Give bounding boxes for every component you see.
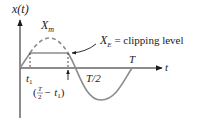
clipped-waveform xyxy=(20,53,132,100)
diagram-svg: x(t) t Xm XE = clipping level t1 T/2 T (… xyxy=(0,0,211,119)
t1-label: t1 xyxy=(26,72,33,86)
clip-level-label: XE = clipping level xyxy=(99,33,184,49)
clip-level-pointer xyxy=(72,44,96,53)
y-axis-label: x(t) xyxy=(11,2,29,16)
svg-text:− t1): − t1) xyxy=(44,86,65,100)
end-clip-label: ( T 2 − t1) xyxy=(33,85,65,101)
x-axis-label: t xyxy=(165,61,169,73)
svg-text:(: ( xyxy=(33,86,37,99)
svg-text:2: 2 xyxy=(38,93,42,101)
svg-text:T: T xyxy=(38,85,43,93)
unclipped-peak-dashed xyxy=(30,38,68,53)
period-label: T xyxy=(129,53,136,65)
half-period-label: T/2 xyxy=(86,72,101,84)
peak-label: Xm xyxy=(40,18,54,34)
clipping-diagram: x(t) t Xm XE = clipping level t1 T/2 T (… xyxy=(0,0,211,119)
